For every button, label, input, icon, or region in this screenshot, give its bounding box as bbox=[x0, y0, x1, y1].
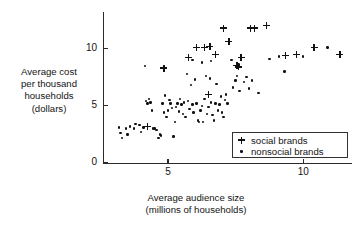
data-point-nonsocial-brand bbox=[148, 98, 150, 100]
data-point-nonsocial-brand bbox=[169, 102, 171, 104]
data-point-nonsocial-brand bbox=[133, 127, 135, 129]
data-point-nonsocial-brand bbox=[165, 116, 167, 118]
data-point-nonsocial-brand bbox=[183, 101, 185, 103]
data-point-nonsocial-brand bbox=[168, 99, 170, 101]
data-point-social-brand bbox=[282, 52, 289, 59]
data-point-nonsocial-brand bbox=[167, 109, 169, 111]
data-point-nonsocial-brand bbox=[206, 113, 208, 115]
y-tick-label: 10 bbox=[71, 42, 97, 53]
x-axis-label-line-2: (millions of households) bbox=[96, 204, 296, 216]
data-point-social-brand bbox=[205, 91, 212, 98]
data-point-nonsocial-brand bbox=[126, 133, 128, 135]
data-point-nonsocial-brand bbox=[140, 131, 142, 133]
data-point-nonsocial-brand bbox=[211, 114, 213, 116]
data-point-social-brand bbox=[263, 22, 270, 29]
data-point-nonsocial-brand bbox=[230, 59, 232, 61]
data-point-social-brand bbox=[193, 44, 200, 51]
data-point-nonsocial-brand bbox=[248, 87, 250, 89]
data-point-nonsocial-brand bbox=[225, 93, 227, 95]
data-point-nonsocial-brand bbox=[191, 103, 193, 105]
data-point-nonsocial-brand bbox=[205, 75, 207, 77]
data-point-nonsocial-brand bbox=[142, 126, 144, 128]
data-point-social-brand bbox=[160, 65, 167, 72]
x-axis-label-line-1: Average audience size bbox=[96, 192, 296, 204]
data-point-nonsocial-brand bbox=[217, 109, 219, 111]
data-point-social-brand bbox=[212, 51, 219, 58]
data-point-nonsocial-brand bbox=[188, 108, 190, 110]
x-tick-label: 5 bbox=[153, 166, 183, 177]
data-point-nonsocial-brand bbox=[179, 98, 181, 100]
legend-box: social brands nonsocial brands bbox=[232, 132, 348, 158]
data-point-nonsocial-brand bbox=[134, 123, 136, 125]
y-tick-label: 5 bbox=[71, 99, 97, 110]
data-point-nonsocial-brand bbox=[224, 99, 226, 101]
data-point-nonsocial-brand bbox=[202, 121, 204, 123]
data-point-nonsocial-brand bbox=[194, 78, 196, 80]
data-point-social-brand bbox=[238, 54, 245, 61]
data-point-nonsocial-brand bbox=[149, 101, 151, 103]
scatter-plot-figure: Average cost per thousand households (do… bbox=[0, 0, 357, 225]
data-point-nonsocial-brand bbox=[218, 103, 220, 105]
data-point-nonsocial-brand bbox=[156, 129, 158, 131]
data-point-social-brand bbox=[206, 43, 213, 50]
data-point-social-brand bbox=[220, 25, 227, 32]
data-point-nonsocial-brand bbox=[238, 90, 240, 92]
dot-icon bbox=[233, 145, 251, 157]
data-point-nonsocial-brand bbox=[226, 102, 228, 104]
data-point-nonsocial-brand bbox=[302, 55, 304, 57]
data-point-nonsocial-brand bbox=[144, 65, 146, 67]
data-point-nonsocial-brand bbox=[278, 55, 280, 57]
legend-label-nonsocial-brands: nonsocial brands bbox=[251, 146, 324, 157]
data-point-nonsocial-brand bbox=[201, 61, 203, 63]
data-point-nonsocial-brand bbox=[198, 121, 200, 123]
data-point-nonsocial-brand bbox=[176, 102, 178, 104]
data-point-nonsocial-brand bbox=[220, 95, 222, 97]
data-point-nonsocial-brand bbox=[213, 119, 215, 121]
data-point-nonsocial-brand bbox=[210, 101, 212, 103]
data-point-nonsocial-brand bbox=[121, 137, 123, 139]
data-point-nonsocial-brand bbox=[164, 94, 166, 96]
data-point-nonsocial-brand bbox=[182, 113, 184, 115]
data-point-nonsocial-brand bbox=[236, 75, 238, 77]
data-point-nonsocial-brand bbox=[161, 102, 163, 104]
data-point-nonsocial-brand bbox=[215, 83, 217, 85]
data-point-social-brand bbox=[311, 44, 318, 51]
data-point-nonsocial-brand bbox=[201, 105, 203, 107]
data-point-nonsocial-brand bbox=[178, 110, 180, 112]
data-point-nonsocial-brand bbox=[118, 126, 120, 128]
data-point-nonsocial-brand bbox=[237, 63, 239, 65]
data-point-nonsocial-brand bbox=[210, 60, 212, 62]
data-point-nonsocial-brand bbox=[129, 125, 131, 127]
data-point-nonsocial-brand bbox=[160, 134, 162, 136]
legend-entry-nonsocial-brands: nonsocial brands bbox=[233, 145, 349, 157]
data-point-nonsocial-brand bbox=[125, 127, 127, 129]
data-point-nonsocial-brand bbox=[171, 107, 173, 109]
data-point-nonsocial-brand bbox=[199, 109, 201, 111]
data-point-nonsocial-brand bbox=[209, 77, 211, 79]
data-point-nonsocial-brand bbox=[232, 86, 234, 88]
data-point-nonsocial-brand bbox=[186, 73, 188, 75]
data-point-nonsocial-brand bbox=[214, 102, 216, 104]
data-point-nonsocial-brand bbox=[251, 79, 253, 81]
legend-label-social-brands: social brands bbox=[251, 135, 308, 146]
data-point-nonsocial-brand bbox=[203, 98, 205, 100]
data-point-nonsocial-brand bbox=[326, 46, 328, 48]
data-point-social-brand bbox=[293, 51, 300, 58]
data-point-nonsocial-brand bbox=[191, 59, 193, 61]
data-point-nonsocial-brand bbox=[163, 111, 165, 113]
data-point-nonsocial-brand bbox=[222, 116, 224, 118]
data-point-nonsocial-brand bbox=[174, 121, 176, 123]
data-point-nonsocial-brand bbox=[283, 70, 285, 72]
data-point-nonsocial-brand bbox=[268, 58, 270, 60]
data-point-nonsocial-brand bbox=[151, 109, 153, 111]
data-point-nonsocial-brand bbox=[180, 103, 182, 105]
data-point-nonsocial-brand bbox=[195, 102, 197, 104]
data-point-nonsocial-brand bbox=[245, 76, 247, 78]
data-point-nonsocial-brand bbox=[119, 132, 121, 134]
data-point-nonsocial-brand bbox=[257, 92, 259, 94]
data-point-nonsocial-brand bbox=[190, 84, 192, 86]
data-point-social-brand bbox=[225, 38, 232, 45]
data-point-social-brand bbox=[144, 123, 151, 130]
data-point-nonsocial-brand bbox=[138, 124, 140, 126]
x-tick-label: 10 bbox=[288, 166, 318, 177]
